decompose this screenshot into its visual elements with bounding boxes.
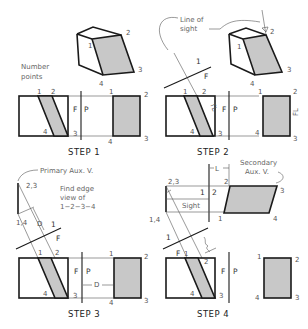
profile-label-1: 1 bbox=[257, 253, 261, 261]
secondary-label-1: 1 bbox=[218, 215, 222, 223]
callout-leader bbox=[18, 170, 38, 181]
fold-label-f: F bbox=[221, 267, 225, 276]
aux-fold-label-f: F bbox=[204, 72, 208, 81]
iso-label-4: 4 bbox=[99, 80, 104, 88]
iso-label-4: 4 bbox=[250, 80, 255, 88]
step-2-panel: 2 1 3 4 Line of sight 1 F F P 1 2 3 4 TL… bbox=[159, 10, 300, 157]
front-label-3: 3 bbox=[73, 130, 77, 138]
aux-label-1-4: 1,4 bbox=[149, 216, 161, 224]
callout-leader bbox=[276, 172, 283, 183]
step-title: STEP 3 bbox=[68, 309, 100, 319]
projection-line-1-4 bbox=[18, 214, 38, 258]
secondary-label-4: 4 bbox=[273, 215, 278, 223]
secondary-label-2: 2 bbox=[224, 178, 228, 186]
profile-label-2: 2 bbox=[295, 256, 299, 264]
frontal-line-label: FL bbox=[292, 108, 300, 116]
step-4-panel: Secondary Aux. V. L 2,3 1,4 Sight 1 2 2 … bbox=[149, 159, 299, 319]
front-label-2: 2 bbox=[51, 88, 55, 96]
front-label-1: 1 bbox=[183, 88, 187, 96]
secondary-fold-label-2: 2 bbox=[212, 188, 217, 197]
front-label-1: 1 bbox=[37, 88, 41, 96]
fold-label-f: F bbox=[222, 105, 226, 114]
aux-fold-label-f: F bbox=[176, 249, 180, 258]
secondary-label-3: 3 bbox=[280, 187, 284, 195]
profile-label-1: 1 bbox=[109, 250, 113, 258]
step-title: STEP 2 bbox=[197, 147, 229, 157]
profile-label-3: 3 bbox=[295, 294, 299, 302]
aux-fold-label-1: 1 bbox=[166, 233, 171, 242]
aux-label-2-3: 2,3 bbox=[26, 182, 37, 190]
dimension-label-d: D bbox=[94, 281, 99, 289]
fold-label-f: F bbox=[74, 267, 78, 276]
front-label-3: 3 bbox=[73, 292, 77, 300]
iso-label-1: 1 bbox=[88, 42, 92, 50]
profile-view bbox=[113, 96, 140, 136]
callout-line-2: sight bbox=[180, 25, 197, 33]
step-1-panel: 1 2 3 4 Number points F P 1 2 3 4 1 2 3 … bbox=[19, 27, 148, 157]
iso-label-2: 2 bbox=[270, 28, 274, 36]
profile-label-2: 2 bbox=[293, 88, 297, 96]
profile-label-3: 3 bbox=[293, 135, 297, 143]
aux-fold-line bbox=[16, 228, 61, 249]
sight-label: Sight bbox=[182, 202, 200, 210]
profile-label-1: 1 bbox=[109, 88, 113, 96]
secondary-aux-view bbox=[224, 186, 277, 213]
front-label-1: 1 bbox=[38, 249, 42, 257]
callout-line-1: Line of bbox=[180, 16, 204, 24]
profile-label-2: 2 bbox=[144, 253, 148, 261]
note-line-1: Find edge bbox=[60, 185, 94, 193]
callout: Primary Aux. V. bbox=[40, 167, 93, 175]
profile-label-3: 3 bbox=[144, 135, 148, 143]
profile-label-4: 4 bbox=[255, 294, 260, 302]
secondary-fold-label-1: 1 bbox=[200, 188, 205, 197]
front-label-4: 4 bbox=[190, 128, 195, 136]
front-label-2: 2 bbox=[204, 258, 208, 266]
profile-label-1: 1 bbox=[258, 88, 262, 96]
iso-label-3: 3 bbox=[287, 66, 291, 74]
front-label-4: 4 bbox=[190, 290, 195, 298]
profile-label-3: 3 bbox=[144, 297, 148, 305]
fold-label-p: P bbox=[233, 267, 238, 276]
note-line-3: 1−2−3−4 bbox=[60, 203, 96, 211]
dimension-label-l: L bbox=[215, 165, 219, 173]
front-label-1: 1 bbox=[184, 250, 188, 258]
aux-fold-label-f: F bbox=[56, 234, 60, 243]
auxiliary-view-diagram: 1 2 3 4 Number points F P 1 2 3 4 1 2 3 … bbox=[0, 0, 308, 329]
profile-label-4: 4 bbox=[108, 138, 113, 146]
profile-label-4: 4 bbox=[255, 129, 260, 137]
profile-label-4: 4 bbox=[109, 299, 114, 307]
step-title: STEP 1 bbox=[68, 147, 100, 157]
shaded-face bbox=[92, 35, 134, 75]
iso-label-2: 2 bbox=[126, 29, 130, 37]
front-label-3: 3 bbox=[218, 130, 222, 138]
aux-fold-label-1: 1 bbox=[51, 220, 56, 229]
callout-leader-right bbox=[209, 20, 260, 29]
front-label-2: 2 bbox=[202, 88, 206, 96]
note-line-2: view of bbox=[60, 194, 86, 202]
step-3-panel: Primary Aux. V. 2,3 1,4 D 1 F Find edge … bbox=[16, 167, 148, 319]
break-line-icon bbox=[204, 237, 210, 252]
iso-label-1: 1 bbox=[237, 43, 241, 51]
iso-label-3: 3 bbox=[138, 66, 142, 74]
aux-fold-label-1: 1 bbox=[196, 57, 201, 66]
fold-label-f: F bbox=[73, 105, 77, 114]
front-label-3: 3 bbox=[219, 292, 223, 300]
step-title: STEP 4 bbox=[197, 309, 229, 319]
fold-label-p: P bbox=[84, 105, 89, 114]
note-line-2: points bbox=[21, 73, 43, 81]
profile-label-2: 2 bbox=[144, 91, 148, 99]
callout-line-1: Secondary bbox=[240, 159, 277, 167]
front-label-4: 4 bbox=[43, 128, 48, 136]
aux-label-2-3: 2,3 bbox=[168, 178, 179, 186]
front-label-4: 4 bbox=[43, 290, 48, 298]
fold-label-p: P bbox=[233, 105, 238, 114]
front-label-2: 2 bbox=[55, 249, 59, 257]
fold-label-p: P bbox=[86, 267, 91, 276]
note-line-1: Number bbox=[21, 63, 49, 71]
callout-line-2: Aux. V. bbox=[245, 168, 269, 176]
callout-leader-left bbox=[159, 17, 178, 50]
